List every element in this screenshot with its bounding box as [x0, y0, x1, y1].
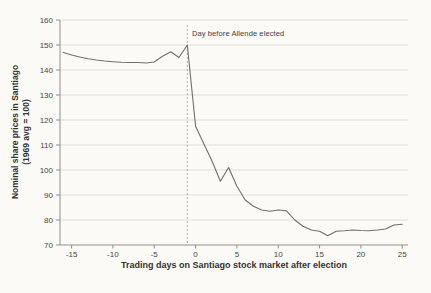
x-tick-label-0: 0 — [193, 250, 198, 259]
series-line-0 — [63, 45, 402, 236]
x-tick-label--5: -5 — [151, 250, 159, 259]
y-tick-label-120: 120 — [40, 116, 54, 125]
y-tick-label-150: 150 — [40, 41, 54, 50]
x-tick-label-25: 25 — [398, 250, 407, 259]
chart-figure: 708090100110120130140150160-15-10-505101… — [0, 0, 431, 293]
y-tick-label-140: 140 — [40, 66, 54, 75]
y-tick-label-90: 90 — [44, 191, 53, 200]
x-axis-title: Trading days on Santiago stock market af… — [60, 260, 408, 270]
x-tick-label--10: -10 — [107, 250, 119, 259]
y-axis-title-line2: (1969 avg = 100) — [21, 17, 32, 247]
x-tick-label-20: 20 — [356, 250, 365, 259]
x-tick-label-5: 5 — [235, 250, 240, 259]
y-tick-label-160: 160 — [40, 16, 54, 25]
y-tick-label-110: 110 — [40, 141, 53, 150]
y-tick-label-100: 100 — [40, 166, 54, 175]
annotation-day-before-allende: Day before Allende elected — [192, 29, 284, 38]
x-tick-label-15: 15 — [315, 250, 324, 259]
line-chart-plot: 708090100110120130140150160-15-10-505101… — [0, 0, 431, 293]
y-tick-label-80: 80 — [44, 216, 53, 225]
y-tick-label-130: 130 — [40, 91, 54, 100]
y-axis-title-line1: Nominal share prices in Santiago — [10, 17, 21, 247]
x-tick-label-10: 10 — [274, 250, 283, 259]
y-axis-title: Nominal share prices in Santiago (1969 a… — [10, 17, 36, 247]
x-tick-label--15: -15 — [66, 250, 78, 259]
y-tick-label-70: 70 — [44, 241, 53, 250]
